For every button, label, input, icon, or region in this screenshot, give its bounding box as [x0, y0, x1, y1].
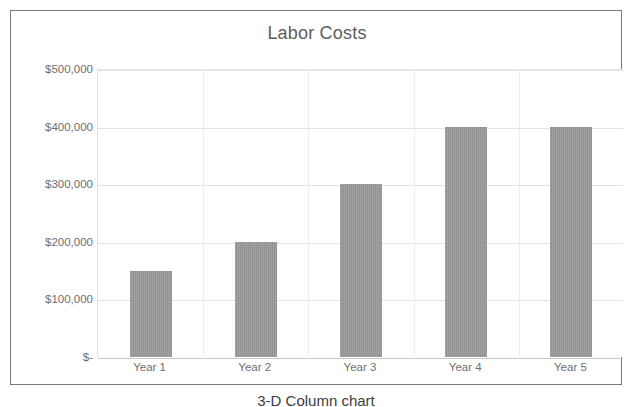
bar-year-5[interactable]	[550, 127, 592, 357]
chart-screenshot: Labor Costs $500,000$400,000$300,000$200…	[0, 0, 632, 407]
bars-layer	[98, 70, 623, 357]
bar-year-1[interactable]	[130, 271, 172, 357]
x-tick-label: Year 5	[518, 361, 623, 373]
bar-year-3[interactable]	[340, 184, 382, 357]
plot-area	[97, 69, 623, 357]
y-tick-label: $200,000	[11, 236, 93, 248]
x-axis: Year 1Year 2Year 3Year 4Year 5	[97, 361, 623, 385]
y-tick-label: $400,000	[11, 121, 93, 133]
y-tick-label: $100,000	[11, 293, 93, 305]
figure-caption: 3-D Column chart	[0, 392, 632, 407]
x-tick-label: Year 2	[202, 361, 307, 373]
bar-year-4[interactable]	[445, 127, 487, 357]
x-tick-label: Year 3	[307, 361, 412, 373]
x-tick-label: Year 1	[97, 361, 202, 373]
x-tick-label: Year 4	[413, 361, 518, 373]
y-tick-label: $-	[11, 351, 93, 363]
horizontal-gridline	[98, 358, 623, 359]
chart-title: Labor Costs	[11, 23, 623, 44]
bar-year-2[interactable]	[235, 242, 277, 357]
y-tick-label: $300,000	[11, 178, 93, 190]
y-tick-label: $500,000	[11, 63, 93, 75]
y-axis: $500,000$400,000$300,000$200,000$100,000…	[11, 69, 93, 359]
chart-frame[interactable]: Labor Costs $500,000$400,000$300,000$200…	[10, 10, 622, 385]
